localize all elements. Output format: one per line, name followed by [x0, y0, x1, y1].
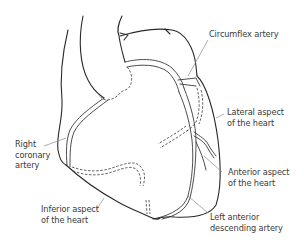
septal-dashed-1 — [158, 126, 186, 144]
aorta-arch — [120, 29, 197, 76]
lad-outer — [158, 92, 193, 218]
label-anterior-aspect: Anterior aspect of the heart — [228, 167, 289, 188]
pulmonary-inner-curve-2 — [127, 65, 179, 92]
inferior-dashed-branch-1 — [72, 163, 145, 186]
label-inferior-aspect: Inferior aspect of the heart — [41, 204, 99, 225]
label-text: Lateral aspect — [227, 107, 284, 118]
leader-lateral — [216, 114, 224, 118]
label-text: descending artery — [210, 223, 283, 234]
label-circumflex-artery: Circumflex artery — [209, 29, 279, 40]
label-text: Anterior aspect — [228, 167, 289, 178]
right-coronary-artery-inner — [70, 100, 108, 167]
svc-inner-line — [80, 16, 104, 98]
lad-inner — [162, 88, 196, 219]
label-text: Circumflex artery — [209, 29, 279, 40]
label-text: Right — [15, 139, 50, 150]
aorta-left-edge — [118, 16, 125, 62]
label-text: Inferior aspect — [41, 204, 99, 215]
label-text: of the heart — [227, 118, 284, 129]
label-text: Left anterior — [210, 212, 283, 223]
septal-dashed-2 — [160, 130, 188, 148]
circumflex-band-bottom — [180, 84, 196, 86]
apex-dashed-2 — [149, 200, 150, 214]
circumflex-dashed-2 — [199, 90, 203, 124]
leader-lad — [188, 196, 208, 213]
pulmonary-inner-curve-1 — [125, 60, 184, 88]
label-right-coronary-artery: Right coronary artery — [15, 139, 50, 171]
right-coronary-artery-outer — [66, 98, 104, 165]
left-auricle-dashed — [99, 67, 132, 100]
label-text: of the heart — [41, 215, 99, 226]
label-text: artery — [15, 160, 50, 171]
label-text: coronary — [15, 150, 50, 161]
apex-dashed-1 — [146, 200, 147, 214]
inferior-dashed-branch-2 — [73, 167, 141, 186]
label-left-anterior-descending: Left anterior descending artery — [210, 212, 283, 233]
leader-circumflex — [188, 40, 208, 76]
label-text: of the heart — [228, 178, 289, 189]
circumflex-dashed-1 — [186, 88, 199, 132]
label-lateral-aspect: Lateral aspect of the heart — [227, 107, 284, 128]
